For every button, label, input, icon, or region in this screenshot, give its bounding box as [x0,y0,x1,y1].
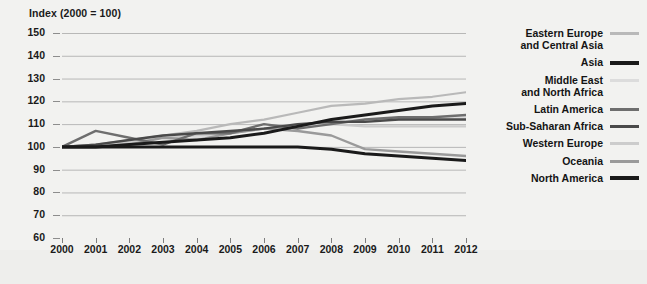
legend-item[interactable]: Oceania [467,155,639,167]
y-axis-tick-label: 150 [15,26,45,38]
y-axis-tick-label: 60 [15,231,45,243]
legend-item[interactable]: Sub-Saharan Africa [467,120,639,132]
series-line [62,147,466,161]
legend-item-label: Oceania [562,155,610,167]
y-axis-tick [53,147,60,148]
legend-item[interactable]: Latin America [467,103,639,115]
legend-item[interactable]: North America [467,172,639,184]
y-axis-tick-label: 70 [15,208,45,220]
y-axis-tick [53,79,60,80]
legend-swatch-icon [610,79,639,82]
legend-item-label: Latin America [534,103,610,115]
legend-swatch-icon [610,160,639,163]
legend-item-label: Asia [581,56,610,68]
y-axis-tick [53,238,60,239]
y-axis-tick-label: 110 [15,117,45,129]
legend-swatch-icon [610,32,639,35]
y-axis-tick [53,101,60,102]
legend-item-label: Western Europe [523,137,610,149]
y-axis-tick-label: 130 [15,72,45,84]
legend-item-label: Eastern Europe and Central Asia [521,27,610,51]
plot-area [62,33,466,238]
legend-item-label: North America [531,172,610,184]
y-axis-tick-label: 120 [15,94,45,106]
legend-swatch-icon [610,61,639,65]
y-axis-title: Index (2000 = 100) [29,7,121,19]
legend-swatch-icon [610,142,639,145]
y-axis-tick-label: 100 [15,140,45,152]
legend-item[interactable]: Western Europe [467,137,639,149]
y-axis-tick-label: 90 [15,163,45,175]
y-axis-tick [53,215,60,216]
page-background-band [0,250,647,284]
y-axis-tick [53,192,60,193]
y-axis-tick [53,56,60,57]
legend-item[interactable]: Asia [467,56,639,68]
legend: Eastern Europe and Central AsiaAsiaMiddl… [467,27,639,189]
legend-swatch-icon [610,108,639,111]
legend-item[interactable]: Eastern Europe and Central Asia [467,27,639,51]
y-axis-tick-label: 80 [15,185,45,197]
series-lines [62,33,466,238]
legend-swatch-icon [610,125,639,128]
chart-figure: Index (2000 = 100) Eastern Europe and Ce… [0,0,647,284]
y-axis-tick [53,170,60,171]
y-axis-tick [53,33,60,34]
x-axis-tick-label: 2012 [445,243,487,255]
legend-swatch-icon [610,176,639,180]
legend-item-label: Sub-Saharan Africa [506,120,610,132]
legend-item-label: Middle East and North Africa [521,74,610,98]
legend-item[interactable]: Middle East and North Africa [467,74,639,98]
y-axis-tick-label: 140 [15,49,45,61]
y-axis-tick [53,124,60,125]
